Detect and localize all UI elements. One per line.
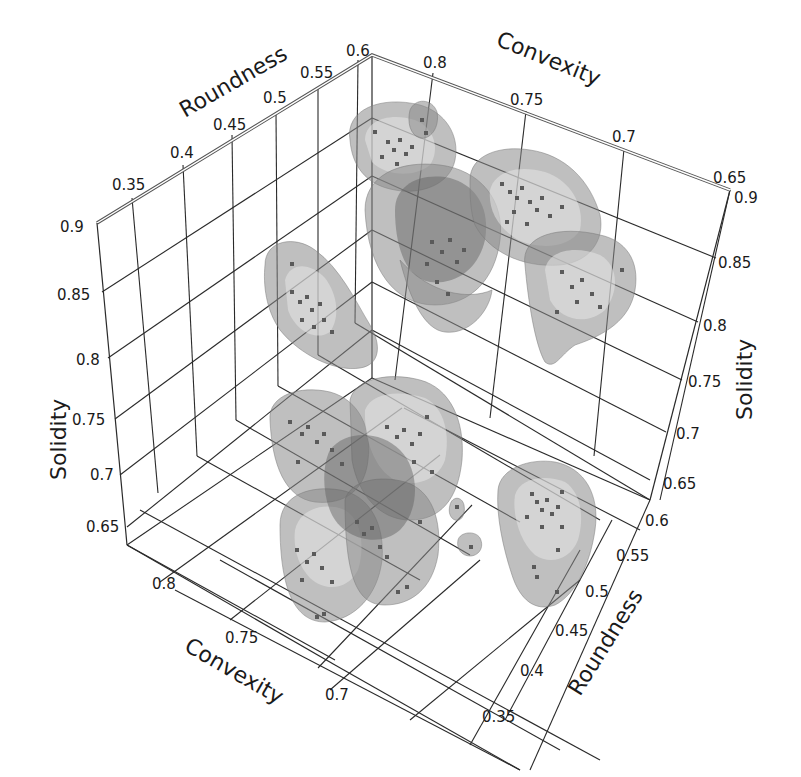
left-solidity-ticks: 0.9 0.85 0.8 0.75 0.7 0.65 (57, 218, 119, 536)
svg-text:0.8: 0.8 (76, 351, 100, 369)
svg-text:0.8: 0.8 (152, 575, 176, 593)
svg-text:0.5: 0.5 (263, 89, 287, 107)
svg-text:0.75: 0.75 (688, 373, 721, 391)
svg-text:0.5: 0.5 (585, 583, 609, 601)
svg-text:0.45: 0.45 (555, 622, 588, 640)
svg-text:0.75: 0.75 (225, 629, 258, 647)
axis-title-roundness-bottom: Roundness (563, 585, 648, 700)
svg-text:0.75: 0.75 (72, 411, 105, 429)
svg-text:0.45: 0.45 (213, 116, 246, 134)
svg-text:0.8: 0.8 (703, 317, 727, 335)
svg-text:0.65: 0.65 (86, 518, 119, 536)
svg-text:0.9: 0.9 (734, 189, 758, 207)
svg-text:0.55: 0.55 (300, 64, 333, 82)
svg-text:0.7: 0.7 (325, 686, 349, 704)
axis-title-convexity-top: Convexity (493, 26, 604, 90)
svg-text:0.9: 0.9 (60, 218, 84, 236)
svg-text:0.6: 0.6 (645, 512, 669, 530)
axis-title-roundness-top: Roundness (175, 41, 291, 123)
svg-text:0.65: 0.65 (713, 169, 746, 187)
svg-text:0.8: 0.8 (423, 54, 447, 72)
svg-text:0.35: 0.35 (112, 176, 145, 194)
svg-text:0.35: 0.35 (482, 708, 515, 726)
svg-text:0.85: 0.85 (57, 286, 90, 304)
svg-text:0.4: 0.4 (170, 144, 194, 162)
svg-text:0.65: 0.65 (663, 475, 696, 493)
svg-text:0.75: 0.75 (510, 91, 543, 109)
3d-scatter-chart: 0.35 0.4 0.45 0.5 0.55 0.6 0.8 0.75 0.7 … (0, 0, 801, 777)
axis-title-solidity-left: Solidity (46, 399, 71, 480)
svg-text:0.6: 0.6 (346, 42, 370, 60)
svg-text:0.55: 0.55 (616, 547, 649, 565)
svg-text:0.4: 0.4 (520, 662, 544, 680)
svg-text:0.7: 0.7 (90, 466, 114, 484)
svg-text:0.85: 0.85 (718, 254, 751, 272)
svg-text:0.7: 0.7 (612, 128, 636, 146)
svg-text:0.7: 0.7 (676, 425, 700, 443)
axis-title-solidity-right: Solidity (732, 339, 757, 420)
